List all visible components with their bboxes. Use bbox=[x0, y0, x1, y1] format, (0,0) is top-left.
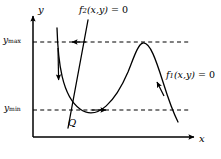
f1-down-arrow bbox=[58, 48, 59, 80]
figure-root: y x ymax ymin f2(x,y) = 0 f1(x,y) = 0 Q bbox=[0, 0, 221, 159]
f1-equation: = 0 bbox=[195, 69, 215, 80]
y-max-tick-label: ymax bbox=[3, 36, 21, 45]
f1-up-left-arrow bbox=[157, 82, 164, 96]
f2-curve-label: f2(x,y) = 0 bbox=[79, 5, 128, 15]
f1-args: (x,y) bbox=[174, 69, 195, 80]
f2-args: (x,y) bbox=[87, 4, 108, 15]
y-max-subscript: max bbox=[8, 37, 21, 44]
x-axis-label: x bbox=[199, 134, 205, 144]
f1-curve-label: f1(x,y) = 0 bbox=[166, 70, 215, 80]
y-min-tick-label: ymin bbox=[4, 104, 21, 113]
y-axis-label: y bbox=[38, 5, 44, 15]
y-min-subscript: min bbox=[9, 105, 21, 112]
f2-equation: = 0 bbox=[108, 4, 128, 15]
point-q-label: Q bbox=[68, 118, 76, 128]
